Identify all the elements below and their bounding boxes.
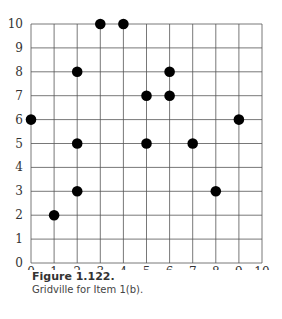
y-tick-label: 4 bbox=[15, 160, 23, 174]
y-tick-label: 8 bbox=[15, 65, 23, 79]
y-tick-label: 6 bbox=[15, 113, 23, 127]
x-tick-label: 6 bbox=[166, 265, 174, 270]
y-tick-label: 10 bbox=[8, 17, 23, 31]
x-tick-label: 7 bbox=[189, 265, 197, 270]
figure-description: Gridville for Item 1(b). bbox=[32, 284, 143, 295]
y-tick-label: 3 bbox=[15, 184, 23, 198]
y-tick-label: 0 bbox=[15, 256, 23, 270]
data-point bbox=[118, 19, 129, 30]
data-point bbox=[211, 186, 222, 197]
data-point bbox=[49, 210, 60, 221]
y-tick-label: 1 bbox=[15, 232, 23, 246]
data-point bbox=[164, 67, 175, 78]
data-point bbox=[141, 90, 152, 101]
data-point bbox=[164, 90, 175, 101]
y-axis-ticks: 012345678910 bbox=[8, 17, 24, 270]
x-tick-label: 8 bbox=[212, 265, 220, 270]
y-tick-label: 2 bbox=[15, 208, 23, 222]
data-point bbox=[26, 114, 37, 125]
data-point bbox=[95, 19, 106, 30]
y-tick-label: 9 bbox=[15, 41, 23, 55]
figure-title: Figure 1.122. bbox=[32, 270, 143, 283]
x-tick-label: 9 bbox=[235, 265, 243, 270]
x-tick-label: 10 bbox=[254, 265, 269, 270]
data-point bbox=[187, 138, 198, 149]
x-tick-label: 5 bbox=[143, 265, 151, 270]
y-tick-label: 7 bbox=[15, 89, 23, 103]
gridville-chart: 012345678910 012345678910 bbox=[0, 0, 282, 270]
data-point bbox=[234, 114, 245, 125]
y-tick-label: 5 bbox=[15, 137, 23, 151]
figure-caption: Figure 1.122. Gridville for Item 1(b). bbox=[32, 270, 143, 295]
data-point bbox=[141, 138, 152, 149]
data-point bbox=[72, 186, 83, 197]
data-point bbox=[72, 67, 83, 78]
data-point bbox=[72, 138, 83, 149]
